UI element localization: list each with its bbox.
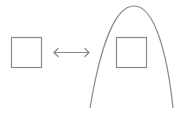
left-square bbox=[12, 38, 42, 68]
double-arrow-icon bbox=[54, 49, 89, 57]
arch-curve bbox=[90, 6, 173, 108]
right-square bbox=[117, 38, 147, 68]
diagram-canvas bbox=[0, 0, 184, 114]
